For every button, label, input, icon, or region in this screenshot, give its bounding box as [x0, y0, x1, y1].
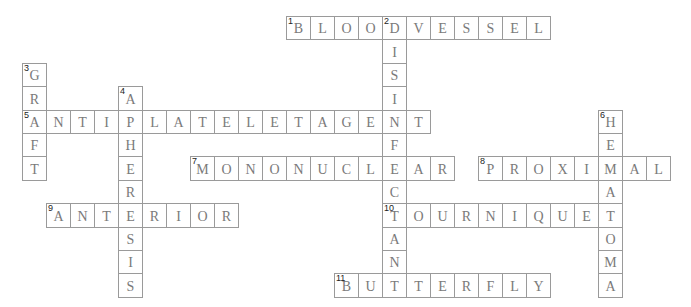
crossword-cell[interactable]: E	[382, 156, 407, 180]
crossword-cell[interactable]: T	[406, 110, 431, 134]
crossword-cell[interactable]: F	[478, 273, 503, 297]
crossword-cell[interactable]: L	[358, 156, 383, 180]
crossword-cell[interactable]: P	[118, 110, 143, 134]
crossword-cell[interactable]: A	[406, 156, 431, 180]
crossword-cell[interactable]: N	[286, 156, 311, 180]
crossword-cell[interactable]: R	[454, 203, 479, 227]
crossword-cell[interactable]: E	[430, 273, 455, 297]
crossword-cell[interactable]: R	[118, 180, 143, 204]
crossword-cell[interactable]: Y	[526, 273, 551, 297]
crossword-cell[interactable]: E	[430, 16, 455, 40]
crossword-cell[interactable]: N	[382, 110, 407, 134]
crossword-cell[interactable]: E	[262, 110, 287, 134]
crossword-cell[interactable]: A	[622, 156, 647, 180]
crossword-cell[interactable]: T	[22, 156, 47, 180]
crossword-cell[interactable]: O	[406, 203, 431, 227]
crossword-cell[interactable]: E	[598, 133, 623, 157]
crossword-cell[interactable]: E	[358, 110, 383, 134]
crossword-cell[interactable]: I	[382, 86, 407, 110]
crossword-cell[interactable]: E	[214, 110, 239, 134]
crossword-cell[interactable]: A	[598, 273, 623, 297]
crossword-cell[interactable]: S	[382, 63, 407, 87]
crossword-cell[interactable]: T	[94, 203, 119, 227]
crossword-cell[interactable]: N	[70, 203, 95, 227]
crossword-cell[interactable]: 6H	[598, 110, 623, 134]
crossword-cell[interactable]: N	[46, 110, 71, 134]
crossword-cell[interactable]: 4A	[118, 86, 143, 110]
crossword-cell[interactable]: I	[94, 110, 119, 134]
crossword-cell[interactable]: R	[454, 273, 479, 297]
crossword-cell[interactable]: N	[382, 250, 407, 274]
crossword-cell[interactable]: X	[550, 156, 575, 180]
cell-letter: R	[143, 209, 166, 225]
crossword-cell[interactable]: U	[430, 203, 455, 227]
crossword-cell[interactable]: O	[598, 227, 623, 251]
crossword-cell[interactable]: T	[598, 203, 623, 227]
crossword-cell[interactable]: A	[166, 110, 191, 134]
crossword-cell[interactable]: O	[526, 156, 551, 180]
crossword-cell[interactable]: A	[310, 110, 335, 134]
crossword-cell[interactable]: R	[430, 156, 455, 180]
crossword-cell[interactable]: N	[238, 156, 263, 180]
crossword-cell[interactable]: C	[334, 156, 359, 180]
crossword-cell[interactable]: L	[502, 273, 527, 297]
crossword-cell[interactable]: I	[118, 250, 143, 274]
crossword-cell[interactable]: S	[454, 16, 479, 40]
crossword-cell[interactable]: L	[142, 110, 167, 134]
crossword-cell[interactable]: V	[406, 16, 431, 40]
crossword-cell[interactable]: 9A	[46, 203, 71, 227]
crossword-cell[interactable]: 5A	[22, 110, 47, 134]
crossword-cell[interactable]: 8P	[478, 156, 503, 180]
crossword-cell[interactable]: T	[406, 273, 431, 297]
crossword-cell[interactable]: R	[142, 203, 167, 227]
crossword-cell[interactable]: O	[214, 156, 239, 180]
crossword-cell[interactable]: M	[598, 250, 623, 274]
crossword-cell[interactable]: E	[118, 203, 143, 227]
crossword-cell[interactable]: 3G	[22, 63, 47, 87]
crossword-cell[interactable]: R	[22, 86, 47, 110]
crossword-cell[interactable]: T	[190, 110, 215, 134]
crossword-cell[interactable]: A	[382, 227, 407, 251]
crossword-cell[interactable]: U	[310, 156, 335, 180]
crossword-cell[interactable]: L	[238, 110, 263, 134]
crossword-cell[interactable]: O	[334, 16, 359, 40]
crossword-cell[interactable]: 1B	[286, 16, 311, 40]
crossword-cell[interactable]: 7M	[190, 156, 215, 180]
crossword-cell[interactable]: A	[598, 180, 623, 204]
crossword-cell[interactable]: O	[190, 203, 215, 227]
crossword-cell[interactable]: 10T	[382, 203, 407, 227]
crossword-cell[interactable]: S	[118, 227, 143, 251]
crossword-cell[interactable]: R	[214, 203, 239, 227]
crossword-cell[interactable]: E	[502, 16, 527, 40]
crossword-cell[interactable]: U	[358, 273, 383, 297]
crossword-cell[interactable]: T	[70, 110, 95, 134]
crossword-cell[interactable]: E	[118, 156, 143, 180]
crossword-cell[interactable]: I	[382, 39, 407, 63]
crossword-cell[interactable]: L	[646, 156, 671, 180]
crossword-cell[interactable]: S	[478, 16, 503, 40]
crossword-cell[interactable]: F	[22, 133, 47, 157]
crossword-cell[interactable]: 2D	[382, 16, 407, 40]
crossword-cell[interactable]: T	[382, 273, 407, 297]
crossword-cell[interactable]: E	[574, 203, 599, 227]
crossword-cell[interactable]: F	[382, 133, 407, 157]
crossword-cell[interactable]: N	[478, 203, 503, 227]
crossword-cell[interactable]: L	[310, 16, 335, 40]
crossword-cell[interactable]: S	[118, 273, 143, 297]
crossword-cell[interactable]: L	[526, 16, 551, 40]
crossword-cell[interactable]: H	[118, 133, 143, 157]
crossword-cell[interactable]: Q	[526, 203, 551, 227]
cell-letter: T	[407, 115, 430, 131]
crossword-cell[interactable]: C	[382, 180, 407, 204]
crossword-cell[interactable]: O	[262, 156, 287, 180]
crossword-cell[interactable]: I	[574, 156, 599, 180]
crossword-cell[interactable]: T	[286, 110, 311, 134]
crossword-cell[interactable]: U	[550, 203, 575, 227]
crossword-cell[interactable]: M	[598, 156, 623, 180]
crossword-cell[interactable]: I	[502, 203, 527, 227]
crossword-cell[interactable]: R	[502, 156, 527, 180]
crossword-cell[interactable]: I	[166, 203, 191, 227]
crossword-cell[interactable]: 11B	[334, 273, 359, 297]
crossword-cell[interactable]: O	[358, 16, 383, 40]
crossword-cell[interactable]: G	[334, 110, 359, 134]
